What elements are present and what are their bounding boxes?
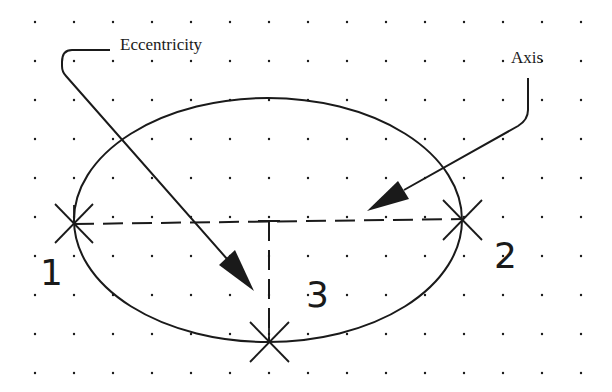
grid-dot — [424, 138, 426, 140]
grid-dot — [112, 177, 114, 179]
dot-grid — [34, 21, 582, 374]
grid-dot — [424, 216, 426, 218]
grid-dot — [463, 138, 465, 140]
point-2-marker-icon — [443, 200, 482, 240]
grid-dot — [151, 60, 153, 62]
grid-dot — [112, 60, 114, 62]
grid-dot — [580, 255, 582, 257]
grid-dot — [424, 99, 426, 101]
grid-dot — [385, 294, 387, 296]
grid-dot — [34, 99, 36, 101]
grid-dot — [385, 177, 387, 179]
grid-dot — [229, 372, 231, 374]
grid-dot — [385, 21, 387, 23]
grid-dot — [112, 21, 114, 23]
grid-dot — [424, 372, 426, 374]
grid-dot — [346, 60, 348, 62]
grid-dot — [541, 177, 543, 179]
grid-dot — [73, 255, 75, 257]
grid-dot — [307, 333, 309, 335]
grid-dot — [34, 294, 36, 296]
grid-dot — [34, 255, 36, 257]
grid-dot — [385, 372, 387, 374]
grid-dot — [463, 333, 465, 335]
grid-dot — [151, 99, 153, 101]
grid-dot — [580, 21, 582, 23]
grid-dot — [580, 138, 582, 140]
grid-dot — [190, 294, 192, 296]
grid-dot — [463, 21, 465, 23]
point-3-label: 3 — [306, 274, 329, 315]
grid-dot — [268, 138, 270, 140]
grid-dot — [229, 21, 231, 23]
grid-dot — [268, 177, 270, 179]
grid-dot — [541, 333, 543, 335]
grid-dot — [268, 99, 270, 101]
grid-dot — [190, 99, 192, 101]
grid-dot — [424, 294, 426, 296]
axis-leader-line — [404, 78, 528, 190]
grid-dot — [346, 372, 348, 374]
grid-dot — [151, 21, 153, 23]
grid-dot — [346, 99, 348, 101]
grid-dot — [385, 216, 387, 218]
grid-dot — [34, 60, 36, 62]
grid-dot — [151, 294, 153, 296]
grid-dot — [541, 99, 543, 101]
grid-dot — [346, 333, 348, 335]
grid-dot — [151, 177, 153, 179]
grid-dot — [190, 21, 192, 23]
grid-dot — [346, 177, 348, 179]
grid-dot — [190, 177, 192, 179]
grid-dot — [502, 177, 504, 179]
grid-dot — [73, 138, 75, 140]
grid-dot — [73, 177, 75, 179]
grid-dot — [190, 138, 192, 140]
grid-dot — [268, 372, 270, 374]
grid-dot — [151, 372, 153, 374]
grid-dot — [580, 99, 582, 101]
grid-dot — [73, 294, 75, 296]
grid-dot — [229, 60, 231, 62]
grid-dot — [463, 99, 465, 101]
ellipse-diagram: Eccentricity Axis 1 2 3 — [0, 0, 612, 392]
grid-dot — [502, 99, 504, 101]
eccentricity-leader-line — [62, 50, 235, 268]
grid-dot — [34, 333, 36, 335]
grid-dot — [190, 372, 192, 374]
grid-dot — [307, 60, 309, 62]
grid-dot — [424, 21, 426, 23]
grid-dot — [463, 255, 465, 257]
grid-dot — [73, 372, 75, 374]
grid-dot — [580, 177, 582, 179]
grid-dot — [385, 99, 387, 101]
grid-dot — [424, 60, 426, 62]
grid-dot — [34, 177, 36, 179]
grid-dot — [307, 177, 309, 179]
grid-dot — [307, 138, 309, 140]
grid-dot — [73, 60, 75, 62]
grid-dot — [112, 99, 114, 101]
point-2-label: 2 — [494, 235, 517, 276]
grid-dot — [346, 138, 348, 140]
grid-dot — [580, 60, 582, 62]
grid-dot — [463, 60, 465, 62]
grid-dot — [307, 21, 309, 23]
grid-dot — [268, 216, 270, 218]
grid-dot — [541, 138, 543, 140]
grid-dot — [424, 255, 426, 257]
grid-dot — [151, 216, 153, 218]
grid-dot — [463, 294, 465, 296]
grid-dot — [73, 333, 75, 335]
point-1-label: 1 — [40, 252, 63, 293]
grid-dot — [112, 138, 114, 140]
grid-dot — [541, 216, 543, 218]
grid-dot — [580, 372, 582, 374]
axis-arrowhead-icon — [367, 181, 409, 211]
grid-dot — [34, 372, 36, 374]
grid-dot — [502, 138, 504, 140]
grid-dot — [385, 255, 387, 257]
grid-dot — [346, 294, 348, 296]
grid-dot — [385, 138, 387, 140]
grid-dot — [346, 216, 348, 218]
